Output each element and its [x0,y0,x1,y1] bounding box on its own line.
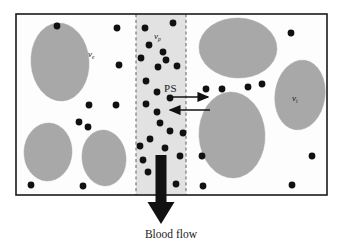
molecule-dot [138,55,145,62]
label-permeability-surface-area: PS [164,82,177,94]
molecule-dot [219,86,226,93]
molecule-dot [143,78,150,85]
label-interstitial-volume: vi [292,93,298,104]
molecule-dot [80,183,87,190]
molecule-dot [140,157,147,164]
molecule-dot [154,89,161,96]
molecule-dot [155,64,162,71]
molecule-dot [146,42,153,49]
molecule-dot [85,124,92,131]
molecule-dot [288,30,295,37]
molecule-dot [203,86,210,93]
molecule-dot [163,57,170,64]
molecule-dot [145,169,152,176]
molecule-dot [162,145,169,152]
label-blood-flow: Blood flow [0,228,342,240]
molecule-dot [157,120,164,127]
molecule-dot [174,63,181,70]
molecule-dot [76,119,83,126]
molecule-dot [28,182,35,189]
tissue-diagram-svg [0,0,342,249]
molecule-dot [86,102,93,109]
molecule-dot [167,128,174,135]
molecule-dot [200,183,207,190]
molecule-dot [113,102,120,109]
molecule-dot [137,143,144,150]
molecule-dot [173,181,180,188]
molecule-dot [180,130,187,137]
molecule-dot [309,153,316,160]
molecule-dot [142,25,149,32]
molecule-dot [154,109,161,116]
label-plasma-volume: vp [154,31,161,42]
molecule-dot [170,20,177,27]
molecule-dot [116,62,123,69]
diagram-stage: ve vp vi PS Blood flow [0,0,342,249]
molecule-dot [114,25,121,32]
molecule-dot [160,49,167,56]
molecule-dot [167,95,174,102]
molecule-dot [143,101,150,108]
molecule-dot [199,153,206,160]
molecule-dot [245,84,252,91]
molecule-dot [54,23,61,30]
label-extracellular-volume: ve [88,49,94,60]
molecule-dot [147,136,154,143]
molecule-dot [259,81,266,88]
molecule-dot [289,182,296,189]
molecule-dot [177,153,184,160]
